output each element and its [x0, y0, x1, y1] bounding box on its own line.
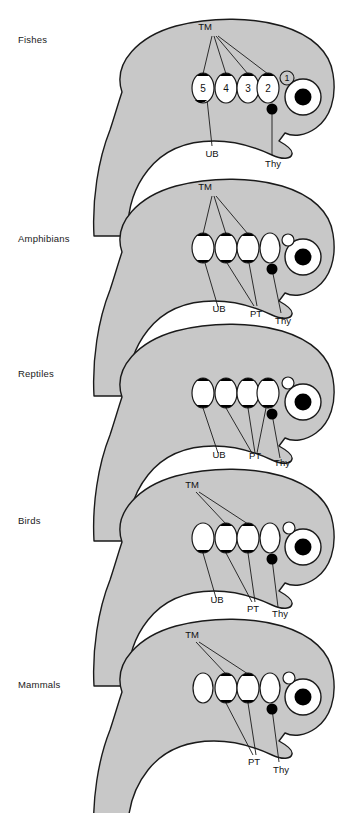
label-pt: PT [247, 603, 259, 614]
pouch-2: 2 [257, 73, 279, 103]
pouch-oval-open [260, 233, 280, 263]
label-pt: PT [249, 450, 261, 461]
label-pt: PT [250, 308, 262, 319]
label-ub: UB [210, 594, 223, 605]
label-thy: Thy [274, 457, 290, 468]
label-tm: TM [185, 479, 199, 490]
label-tm: TM [185, 629, 199, 640]
thyroid-dot [267, 104, 278, 115]
thyroid-dot [267, 554, 278, 565]
label-tm: TM [198, 181, 212, 192]
comparative-embryo-figure: Fishes Amphibians Reptiles Birds Mammals [0, 0, 355, 813]
pouch-5: 5 [191, 73, 214, 103]
pouch-4: 4 [215, 73, 237, 103]
pouch-4 [215, 233, 237, 263]
label-thy: Thy [272, 608, 288, 619]
pouch-number-3: 3 [245, 83, 251, 94]
pouch-5 [192, 378, 214, 408]
label-ub: UB [205, 148, 218, 159]
eye-pupil [295, 89, 312, 106]
pouch-4 [215, 378, 237, 408]
label-ub: UB [212, 449, 225, 460]
pouch-number-5: 5 [200, 83, 206, 94]
eye-pupil [295, 689, 312, 706]
pouch-oval-open [260, 673, 280, 703]
pouch-oval-open [260, 523, 280, 553]
pouch-4 [215, 523, 237, 553]
label-thy: Thy [273, 764, 289, 775]
pouch-3 [237, 233, 259, 263]
label-ub: UB [212, 303, 225, 314]
pouch-small-circle [283, 672, 295, 684]
label-tm: TM [198, 21, 212, 32]
pouch-number-4: 4 [223, 83, 229, 94]
pouch-small-circle [282, 234, 294, 246]
label-thy: Thy [265, 158, 281, 169]
circled-number-label: 1 [284, 73, 289, 83]
label-thy: Thy [275, 315, 291, 326]
pouch-5 [192, 523, 214, 553]
embryo-diagram-svg: 5 4 3 2 1 [0, 0, 355, 813]
pouch-3: 3 [237, 73, 259, 103]
label-pt: PT [248, 756, 260, 767]
pouch-3 [237, 523, 259, 553]
thyroid-dot [267, 264, 278, 275]
pouch-3 [237, 378, 259, 408]
pouch-4 [215, 673, 237, 703]
pouch-oval-open-leading [193, 673, 213, 703]
thyroid-dot [267, 409, 278, 420]
eye-pupil [295, 249, 312, 266]
pouch-number-2: 2 [265, 83, 271, 94]
pouch-small-circle [283, 522, 295, 534]
pouch-3 [237, 673, 259, 703]
eye-pupil [295, 394, 312, 411]
pouch-5 [192, 233, 214, 263]
eye-pupil [295, 539, 312, 556]
thyroid-dot [267, 704, 278, 715]
pouch-small-circle [282, 377, 294, 389]
pouch-2 [257, 378, 279, 408]
